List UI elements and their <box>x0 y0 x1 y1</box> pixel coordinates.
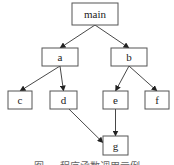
edge-main-to-b <box>95 25 129 48</box>
node-e: e <box>103 91 128 109</box>
node-label: a <box>58 51 63 63</box>
node-a: a <box>42 48 78 66</box>
edge-d-to-g <box>69 109 103 143</box>
node-f: f <box>145 91 169 109</box>
node-label: d <box>61 94 67 106</box>
edge-a-to-c <box>20 66 60 91</box>
edge-b-to-f <box>129 66 157 91</box>
edges <box>20 25 157 143</box>
edge-a-to-d <box>60 66 64 91</box>
node-d: d <box>50 91 77 109</box>
node-label: c <box>18 94 23 106</box>
edge-b-to-e <box>116 66 130 91</box>
node-label: e <box>113 94 118 106</box>
node-label: f <box>155 94 159 106</box>
node-c: c <box>8 91 32 109</box>
edge-main-to-a <box>60 25 95 48</box>
figure-caption: 图 ... 程序函数调用示例 <box>0 158 174 165</box>
node-label: main <box>84 8 106 20</box>
call-graph-diagram: mainabcdefg <box>0 0 174 165</box>
node-main: main <box>72 3 118 25</box>
node-b: b <box>111 48 147 66</box>
node-label: b <box>126 51 132 63</box>
nodes: mainabcdefg <box>8 3 169 155</box>
node-g: g <box>103 136 128 155</box>
node-label: g <box>113 140 119 152</box>
